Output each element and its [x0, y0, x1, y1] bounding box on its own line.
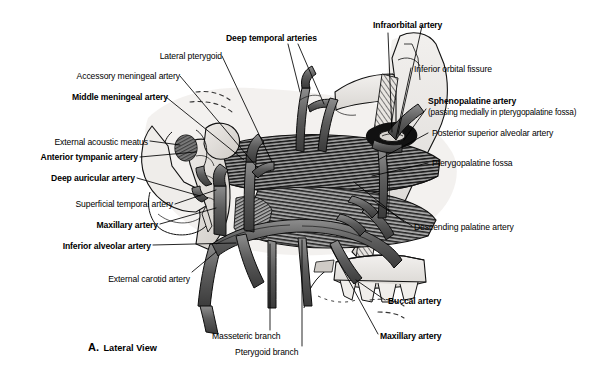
label-maxillary-artery-right: Maxillary artery	[380, 331, 441, 341]
superficial-temporal-vessel	[214, 186, 226, 236]
label-pterygoid-branch: Pterygoid branch	[235, 347, 298, 357]
leader-deep-temporal-1	[288, 44, 300, 92]
anatomy-figure-plate: Deep temporal arteries Infraorbital arte…	[0, 0, 616, 379]
label-deep-auricular-artery: Deep auricular artery	[51, 173, 135, 183]
label-pterygopalatine-fossa: Pterygopalatine fossa	[432, 158, 513, 168]
caption-text: Lateral View	[103, 343, 156, 353]
label-deep-temporal-arteries: Deep temporal arteries	[226, 33, 317, 43]
label-maxillary-artery-left: Maxillary artery	[97, 220, 158, 230]
label-external-acoustic-meatus: External acoustic meatus	[54, 137, 148, 147]
figure-caption: A. Lateral View	[88, 337, 157, 355]
label-accessory-meningeal-artery: Accessory meningeal artery	[77, 71, 180, 81]
label-masseteric-branch: Masseteric branch	[212, 331, 281, 341]
label-inferior-alveolar-artery: Inferior alveolar artery	[63, 241, 151, 251]
label-sphenopalatine-artery-note: (passing medially in pterygopalatine fos…	[428, 108, 576, 118]
anatomical-illustration	[0, 0, 616, 379]
label-anterior-tympanic-artery: Anterior tympanic artery	[41, 152, 138, 162]
label-middle-meningeal-artery: Middle meningeal artery	[72, 92, 168, 102]
label-posterior-superior-alveolar-artery: Posterior superior alveolar artery	[432, 128, 553, 138]
mandibular-condyle	[204, 123, 240, 159]
masseteric-branch-vessel	[268, 240, 276, 308]
hard-palate	[314, 260, 334, 272]
label-infraorbital-artery: Infraorbital artery	[373, 20, 442, 30]
label-buccal-artery: Buccal artery	[388, 296, 441, 306]
label-lateral-pterygoid: Lateral pterygoid	[160, 51, 222, 61]
label-inferior-orbital-fissure: Inferior orbital fissure	[414, 64, 492, 74]
label-sphenopalatine-artery: Sphenopalatine artery	[428, 96, 516, 106]
label-external-carotid-artery: External carotid artery	[108, 274, 190, 284]
label-superficial-temporal-artery: Superficial temporal artery	[75, 199, 173, 209]
label-descending-palatine-artery: Descending palatine artery	[414, 222, 514, 232]
caption-letter: A.	[88, 341, 99, 353]
